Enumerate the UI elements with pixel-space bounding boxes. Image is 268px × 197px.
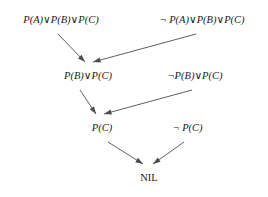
edge-c4-to-c5 [104,90,192,114]
clause-label-c5: P(C) [92,123,112,134]
clause-box-c6: ¬ P(C) [165,116,210,141]
clause-label-c6: ¬ P(C) [172,123,202,134]
clause-box-c2: ¬ P(A)∨P(B)∨P(C) [142,7,262,33]
arrowhead-c5-to-c7 [135,158,143,164]
clause-box-c7: NIL [134,166,164,190]
clause-box-c1: P(A)∨P(B)∨P(C) [5,7,117,33]
arrowhead-c4-to-c5 [104,110,112,115]
clause-box-c4: ¬P(B)∨P(C) [153,63,237,89]
clause-label-c3: P(B)∨P(C) [64,71,112,82]
arrowhead-c6-to-c7 [153,158,161,164]
clause-label-c1: P(A)∨P(B)∨P(C) [23,15,98,26]
arrowhead-c3-to-c5 [90,106,96,114]
clause-label-c4: ¬P(B)∨P(C) [167,71,222,82]
clause-label-c7: NIL [140,173,158,184]
resolution-proof-diagram: P(A)∨P(B)∨P(C)¬ P(A)∨P(B)∨P(C)P(B)∨P(C)¬… [0,0,268,197]
edge-c2-to-c3 [93,34,196,62]
clause-box-c5: P(C) [82,116,122,141]
arrowhead-c2-to-c3 [93,58,101,63]
clause-label-c2: ¬ P(A)∨P(B)∨P(C) [159,15,244,26]
clause-box-c3: P(B)∨P(C) [49,63,127,89]
